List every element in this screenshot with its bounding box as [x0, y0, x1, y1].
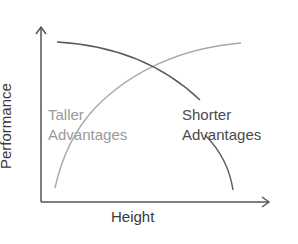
shorter-label-line1: Shorter	[182, 105, 261, 125]
taller-label-line2: Advantages	[48, 125, 127, 145]
x-axis-label: Height	[111, 208, 154, 225]
shorter-advantages-curve	[57, 42, 200, 100]
shorter-label-line2: Advantages	[182, 125, 261, 145]
y-axis-label: Performance	[0, 83, 14, 169]
shorter-advantages-label: Shorter Advantages	[182, 105, 261, 145]
taller-label-line1: Taller	[48, 105, 127, 125]
taller-advantages-label: Taller Advantages	[48, 105, 127, 145]
